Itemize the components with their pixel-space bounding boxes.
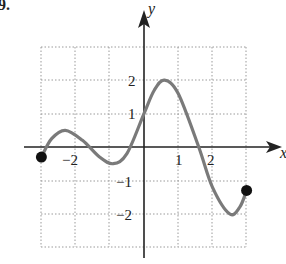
problem-number: 9. (0, 0, 10, 13)
x-tick-label-1: 1 (175, 152, 183, 168)
y-axis-label: y (146, 0, 156, 18)
y-tick-label-neg2: −2 (116, 207, 132, 223)
axes (24, 20, 272, 258)
y-tick-label-2: 2 (128, 73, 136, 89)
closed-endpoint-right (241, 185, 252, 196)
x-tick-label-neg2: −2 (62, 152, 78, 168)
x-tick-label-2: 2 (207, 152, 215, 168)
chart-svg: 9. y x −2 1 2 2 1 (0, 0, 286, 264)
y-tick-label-1: 1 (128, 106, 136, 122)
x-axis-label: x (279, 144, 286, 161)
y-tick-label-neg1: −1 (116, 174, 132, 190)
closed-endpoint-left (36, 152, 47, 163)
graph-figure: 9. y x −2 1 2 2 1 (0, 0, 286, 264)
